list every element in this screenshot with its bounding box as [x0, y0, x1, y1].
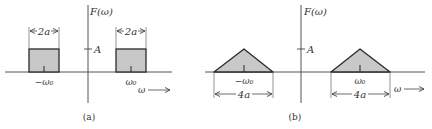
spectrum-diagram: 2a 2a A F(ω) −ω₀ ω₀ ω (a): [0, 0, 432, 129]
panel-caption: (a): [83, 112, 95, 122]
positive-center-label: ω₀: [126, 77, 137, 87]
positive-center-label: ω₀: [355, 76, 366, 86]
y-axis-label: F(ω): [89, 6, 113, 17]
width-label: 2a: [124, 26, 137, 37]
negative-center-label: −ω₀: [35, 77, 54, 87]
panel-a: 2a 2a A F(ω) −ω₀ ω₀ ω (a): [5, 5, 172, 122]
width-label: 4a: [353, 89, 366, 100]
amplitude-label: A: [306, 44, 314, 55]
negative-center-label: −ω₀: [235, 76, 254, 86]
panel-b: 4a 4a A F(ω) −ω₀ ω₀ ω (b): [205, 5, 425, 122]
width-label: 4a: [237, 89, 250, 100]
x-axis-label: ω: [138, 85, 146, 95]
amplitude-label: A: [93, 44, 101, 55]
panel-caption: (b): [289, 112, 302, 122]
x-axis-label: ω: [394, 84, 402, 94]
y-axis-label: F(ω): [303, 6, 327, 17]
width-label: 2a: [37, 26, 50, 37]
width-dimension-right: 2a: [116, 26, 146, 50]
width-dimension-left: 2a: [29, 26, 59, 50]
